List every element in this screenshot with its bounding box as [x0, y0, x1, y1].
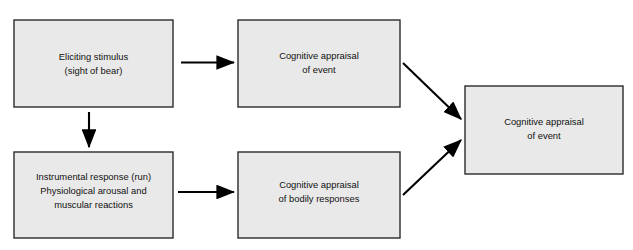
arrow-appraisal-event-to-final [403, 63, 461, 119]
node-label-cognitive-appraisal-of-event-right-line2: of event [527, 130, 561, 141]
node-label-instrumental-response-line2: Physiological arousal and [40, 185, 146, 196]
node-label-instrumental-response-line3: muscular reactions [54, 199, 133, 210]
node-label-cognitive-appraisal-of-event-top-line2: of event [302, 64, 336, 75]
node-cognitive-appraisal-of-event-right: Cognitive appraisal of event [465, 86, 623, 174]
diagram-canvas: Eliciting stimulus (sight of bear) Cogni… [0, 0, 633, 250]
node-box-eliciting-stimulus [14, 20, 173, 107]
node-label-eliciting-stimulus-line2: (sight of bear) [65, 65, 123, 76]
node-label-cognitive-appraisal-of-event-top-line1: Cognitive appraisal [279, 50, 359, 61]
node-instrumental-response: Instrumental response (run) Physiologica… [14, 152, 173, 238]
arrow-bodily-appraisal-to-final [403, 140, 461, 195]
node-cognitive-appraisal-of-event-top: Cognitive appraisal of event [238, 20, 400, 107]
node-label-cognitive-appraisal-of-bodily-responses-line1: Cognitive appraisal [279, 179, 359, 190]
flowchart: Eliciting stimulus (sight of bear) Cogni… [0, 0, 633, 250]
node-label-instrumental-response-line1: Instrumental response (run) [36, 171, 151, 182]
node-label-cognitive-appraisal-of-bodily-responses-line2: of bodily responses [279, 193, 360, 204]
node-label-eliciting-stimulus-line1: Eliciting stimulus [59, 51, 129, 62]
node-cognitive-appraisal-of-bodily-responses: Cognitive appraisal of bodily responses [238, 152, 400, 238]
node-label-cognitive-appraisal-of-event-right-line1: Cognitive appraisal [504, 116, 584, 127]
node-eliciting-stimulus: Eliciting stimulus (sight of bear) [14, 20, 173, 107]
